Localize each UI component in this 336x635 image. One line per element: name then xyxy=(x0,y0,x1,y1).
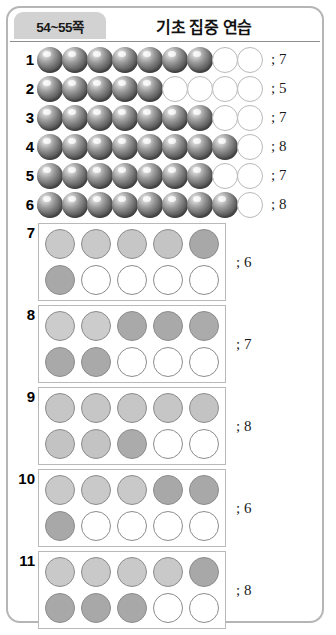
filled-sphere xyxy=(62,47,88,73)
filled-sphere xyxy=(87,76,113,102)
filled-disc xyxy=(45,511,75,541)
row-number: 3 xyxy=(17,109,34,126)
filled-disc xyxy=(45,229,75,259)
sphere-track xyxy=(37,134,262,160)
row-answer: ; 7 xyxy=(236,336,251,353)
filled-disc xyxy=(45,265,75,295)
sphere-row: 5; 7 xyxy=(8,161,322,190)
filled-sphere xyxy=(137,105,163,131)
filled-disc xyxy=(189,393,219,423)
empty-sphere xyxy=(237,76,263,102)
box-item: 11; 8 xyxy=(8,551,322,629)
disc-line xyxy=(45,393,219,423)
filled-sphere xyxy=(137,47,163,73)
empty-disc xyxy=(189,511,219,541)
empty-disc xyxy=(153,429,183,459)
exercise-list: 1; 72; 53; 74; 85; 76; 8 7; 68; 79; 810;… xyxy=(8,42,322,629)
empty-disc xyxy=(117,347,147,377)
filled-disc xyxy=(81,393,111,423)
sphere-rows-group: 1; 72; 53; 74; 85; 76; 8 xyxy=(8,45,322,219)
filled-sphere xyxy=(162,105,188,131)
sphere-track xyxy=(37,163,262,189)
sphere-row: 4; 8 xyxy=(8,132,322,161)
row-number: 8 xyxy=(17,306,35,323)
row-answer: ; 8 xyxy=(236,418,251,435)
empty-sphere xyxy=(212,76,238,102)
disc-line xyxy=(45,311,219,341)
box-item: 9; 8 xyxy=(8,387,322,465)
sphere-track xyxy=(37,192,262,218)
empty-sphere xyxy=(237,105,263,131)
empty-disc xyxy=(117,265,147,295)
filled-disc xyxy=(117,311,147,341)
filled-sphere xyxy=(137,192,163,218)
row-answer: ; 8 xyxy=(236,582,251,599)
filled-sphere xyxy=(112,105,138,131)
empty-sphere xyxy=(212,163,238,189)
row-answer: ; 7 xyxy=(271,51,286,68)
filled-disc xyxy=(81,429,111,459)
filled-disc xyxy=(45,557,75,587)
filled-sphere xyxy=(87,105,113,131)
filled-disc xyxy=(81,311,111,341)
filled-disc xyxy=(117,429,147,459)
empty-sphere xyxy=(212,47,238,73)
row-answer: ; 7 xyxy=(271,109,286,126)
row-answer: ; 8 xyxy=(271,196,286,213)
filled-disc xyxy=(117,593,147,623)
row-answer: ; 6 xyxy=(236,254,251,271)
box-item: 10; 6 xyxy=(8,469,322,547)
filled-disc xyxy=(189,229,219,259)
filled-disc xyxy=(45,347,75,377)
filled-disc xyxy=(153,557,183,587)
filled-disc xyxy=(81,593,111,623)
filled-sphere xyxy=(37,76,63,102)
page-title: 기초 집중 연습 xyxy=(156,14,270,38)
disc-grid xyxy=(38,387,226,465)
empty-disc xyxy=(153,347,183,377)
filled-disc xyxy=(45,593,75,623)
empty-sphere xyxy=(162,76,188,102)
empty-disc xyxy=(81,511,111,541)
filled-sphere xyxy=(137,76,163,102)
row-number: 10 xyxy=(17,470,35,487)
filled-sphere xyxy=(87,163,113,189)
filled-sphere xyxy=(162,47,188,73)
worksheet-header: 54~55쪽 기초 집중 연습 xyxy=(10,10,320,42)
filled-sphere xyxy=(187,105,213,131)
filled-disc xyxy=(45,393,75,423)
empty-sphere xyxy=(237,47,263,73)
filled-sphere xyxy=(187,163,213,189)
filled-disc xyxy=(153,475,183,505)
filled-sphere xyxy=(62,163,88,189)
filled-sphere xyxy=(87,192,113,218)
filled-sphere xyxy=(187,134,213,160)
row-number: 5 xyxy=(17,167,34,184)
filled-disc xyxy=(189,557,219,587)
row-answer: ; 6 xyxy=(236,500,251,517)
disc-line xyxy=(45,229,219,259)
filled-disc xyxy=(45,311,75,341)
filled-sphere xyxy=(62,192,88,218)
sphere-row: 2; 5 xyxy=(8,74,322,103)
disc-line xyxy=(45,429,219,459)
row-answer: ; 8 xyxy=(271,138,286,155)
row-number: 2 xyxy=(17,80,34,97)
empty-sphere xyxy=(237,134,263,160)
filled-sphere xyxy=(62,76,88,102)
sphere-track xyxy=(37,76,262,102)
disc-line xyxy=(45,347,219,377)
filled-disc xyxy=(81,557,111,587)
box-item: 7; 6 xyxy=(8,223,322,301)
box-items-group: 7; 68; 79; 810; 611; 8 xyxy=(8,223,322,629)
filled-disc xyxy=(45,475,75,505)
filled-sphere xyxy=(162,134,188,160)
filled-sphere xyxy=(87,134,113,160)
sphere-track xyxy=(37,105,262,131)
filled-disc xyxy=(153,229,183,259)
empty-disc xyxy=(153,511,183,541)
empty-sphere xyxy=(187,76,213,102)
row-number: 6 xyxy=(17,196,34,213)
filled-disc xyxy=(117,229,147,259)
row-answer: ; 7 xyxy=(271,167,286,184)
